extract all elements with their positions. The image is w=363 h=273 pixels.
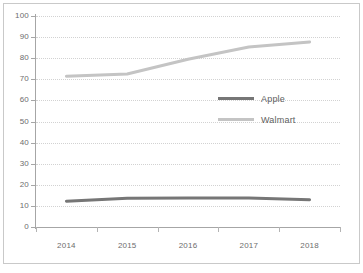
x-tick-mark — [218, 227, 219, 232]
y-tick-label: 30 — [2, 160, 29, 168]
chart-legend: Apple Walmart — [218, 88, 328, 130]
y-tick-label: 60 — [2, 96, 29, 104]
series-line-walmart — [66, 42, 309, 76]
x-tick-label: 2017 — [218, 241, 279, 250]
legend-item-walmart: Walmart — [218, 109, 328, 130]
y-tick-label: 40 — [2, 139, 29, 147]
y-tick-label: 80 — [2, 54, 29, 62]
y-tick-label: 90 — [2, 33, 29, 41]
y-tick-label: 20 — [2, 181, 29, 189]
legend-swatch-apple — [218, 97, 254, 100]
x-tick-mark — [340, 227, 341, 232]
legend-item-apple: Apple — [218, 88, 328, 109]
x-tick-mark — [36, 227, 37, 232]
y-tick-label: 100 — [2, 12, 29, 20]
legend-label-walmart: Walmart — [261, 115, 296, 125]
y-tick-label: 10 — [2, 202, 29, 210]
x-tick-label: 2018 — [279, 241, 340, 250]
x-tick-label: 2015 — [97, 241, 158, 250]
y-tick-label: 0 — [2, 223, 29, 231]
x-tick-mark — [279, 227, 280, 232]
x-tick-label: 2014 — [36, 241, 97, 250]
x-tick-label: 2016 — [158, 241, 219, 250]
x-axis-line — [36, 227, 340, 228]
legend-swatch-walmart — [218, 118, 254, 121]
y-tick-label: 50 — [2, 118, 29, 126]
x-tick-mark — [97, 227, 98, 232]
legend-label-apple: Apple — [261, 94, 285, 104]
y-tick-label: 70 — [2, 75, 29, 83]
series-line-apple — [66, 198, 309, 201]
line-chart: 0102030405060708090100 20142015201620172… — [0, 0, 363, 273]
x-tick-mark — [158, 227, 159, 232]
